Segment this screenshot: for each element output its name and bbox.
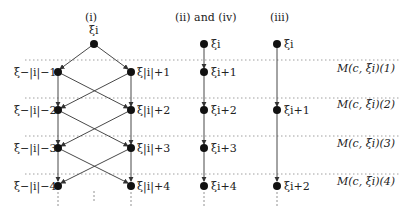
- node-label: ξi+2: [211, 105, 237, 116]
- diagram: (i) (ii) and (iv) (iii) ξi ξ−|i|−1 ξ−|i|…: [0, 0, 407, 215]
- node-label: ξ−|i|−4: [14, 181, 56, 192]
- node-label: ξi+4: [211, 181, 237, 192]
- node-label: ξi+1: [284, 105, 310, 116]
- node-label: ξ|i|+3: [137, 143, 170, 154]
- level-label: M(c, ξi)(4): [337, 176, 395, 187]
- header-iii: (iii): [270, 12, 289, 23]
- header-i: (i): [85, 12, 97, 23]
- level-label: M(c, ξi)(1): [337, 63, 395, 74]
- node-label: ξ−|i|−2: [14, 105, 56, 116]
- col-i-edges: [58, 44, 131, 183]
- node-label: ξi+3: [211, 143, 237, 154]
- node-label: ξ|i|+1: [137, 67, 170, 78]
- node-label: ξ|i|+2: [137, 105, 170, 116]
- level-label: M(c, ξi)(2): [337, 99, 395, 110]
- node-label: ξ−|i|−1: [14, 67, 56, 78]
- header-ii-iv: (ii) and (iv): [175, 12, 237, 23]
- node-label: ξi+2: [284, 181, 310, 192]
- node-label: ξi: [211, 39, 221, 50]
- node-label: ξ|i|+4: [137, 181, 170, 192]
- node-label: ξi: [89, 25, 99, 36]
- node-label: ξi: [284, 39, 294, 50]
- node-label: ξ−|i|−3: [14, 143, 56, 154]
- node-label: ξi+1: [211, 67, 237, 78]
- level-label: M(c, ξi)(3): [337, 138, 395, 149]
